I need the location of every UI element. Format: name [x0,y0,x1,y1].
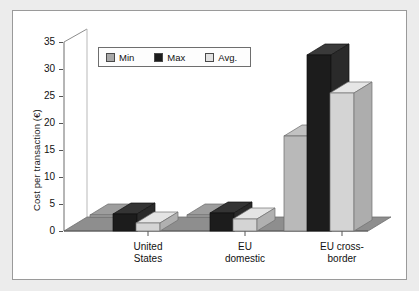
chart-frame: Cost per transaction (€) 35 30 25 20 15 … [12,10,407,280]
chart-legend: Min Max Avg. [98,47,251,67]
x-category-label-eu-cross-border: EU cross- border [300,241,384,265]
x-category-line-1: United [134,241,163,252]
legend-label-min: Min [119,52,134,63]
x-category-line-2: border [328,253,357,264]
chart-screenshot: Cost per transaction (€) 35 30 25 20 15 … [0,0,419,291]
x-category-label-united-states: United States [106,241,190,265]
max-swatch [154,53,163,62]
legend-item-avg: Avg. [205,52,237,63]
x-category-line-2: States [134,253,162,264]
legend-item-max: Max [154,52,185,63]
avg-swatch [205,53,214,62]
legend-item-min: Min [106,52,134,63]
legend-label-avg: Avg. [218,52,237,63]
x-category-line-2: domestic [225,253,265,264]
x-category-line-1: EU cross- [320,241,364,252]
legend-label-max: Max [167,52,185,63]
x-category-label-eu-domestic: EU domestic [203,241,287,265]
bar-eu-cross-border-avg [330,82,372,231]
chart-plot-area: Cost per transaction (€) 35 30 25 20 15 … [13,11,408,281]
x-category-line-1: EU [238,241,252,252]
min-swatch [106,53,115,62]
y-axis-depth-edge [64,29,87,42]
